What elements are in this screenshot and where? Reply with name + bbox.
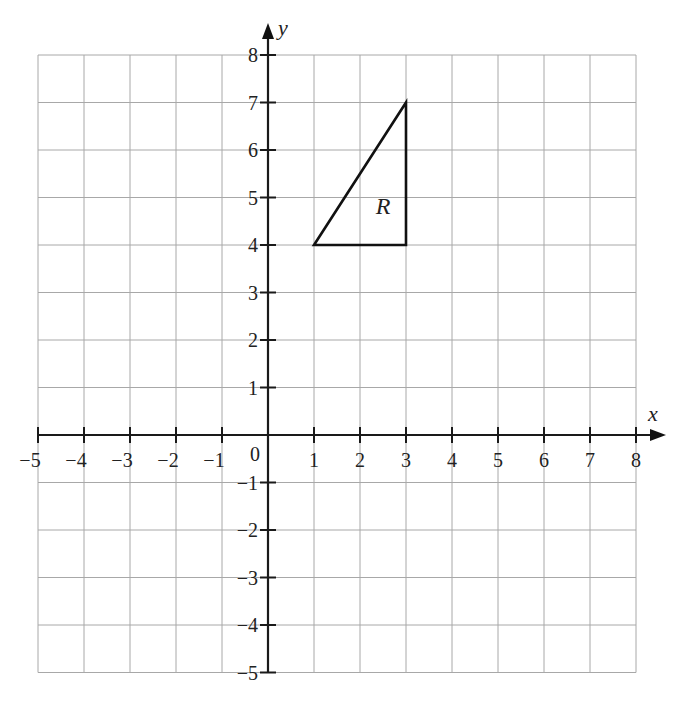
- y-tick-label: −1: [237, 472, 258, 494]
- x-tick-label: −4: [65, 449, 86, 471]
- y-tick-label: 1: [248, 377, 258, 399]
- y-tick-label: −2: [237, 519, 258, 541]
- y-tick-label: −4: [237, 614, 258, 636]
- y-tick-label: −5: [237, 662, 258, 684]
- x-tick-label: 5: [493, 449, 503, 471]
- x-tick-label: −3: [111, 449, 132, 471]
- coordinate-grid: −5−4−3−2−112345678−5−4−3−2−112345678 R x…: [0, 0, 685, 718]
- x-axis-arrow-icon: [650, 429, 666, 441]
- shape-label: R: [375, 193, 391, 219]
- x-tick-label: 7: [585, 449, 595, 471]
- y-axis-label: y: [276, 15, 288, 40]
- axis-ticks: [38, 55, 636, 673]
- x-tick-label: 1: [309, 449, 319, 471]
- x-tick-label: 2: [355, 449, 365, 471]
- y-axis-arrow-icon: [262, 23, 274, 39]
- axes: [38, 23, 666, 673]
- grid-lines: [38, 55, 636, 673]
- x-tick-label: 6: [539, 449, 549, 471]
- y-tick-label: −3: [237, 567, 258, 589]
- x-tick-label: −2: [157, 449, 178, 471]
- y-tick-label: 6: [248, 139, 258, 161]
- x-tick-label: 3: [401, 449, 411, 471]
- x-tick-label: 4: [447, 449, 457, 471]
- tick-labels: −5−4−3−2−112345678−5−4−3−2−112345678: [19, 44, 641, 684]
- y-tick-label: 5: [248, 187, 258, 209]
- x-axis-label: x: [647, 401, 658, 426]
- x-tick-label: 8: [631, 449, 641, 471]
- x-tick-label: −1: [203, 449, 224, 471]
- y-tick-label: 7: [248, 92, 258, 114]
- y-tick-label: 8: [248, 44, 258, 66]
- x-tick-label: −5: [19, 449, 40, 471]
- origin-label: 0: [250, 443, 260, 465]
- y-tick-label: 4: [248, 234, 258, 256]
- y-tick-label: 2: [248, 329, 258, 351]
- y-tick-label: 3: [248, 282, 258, 304]
